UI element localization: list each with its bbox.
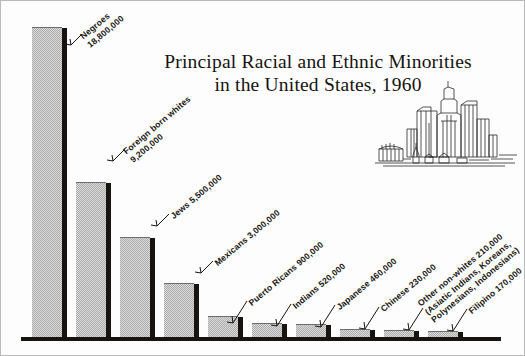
bar-jews-fill — [120, 237, 150, 337]
bar-japanese-shadow — [326, 325, 331, 337]
bar-filipino-fill — [428, 331, 458, 337]
bar-mexicans-shadow — [194, 284, 199, 337]
bar-mexicans-fill — [164, 283, 194, 337]
bar-puerto-ricans-fill — [208, 316, 238, 337]
bar-negroes-shadow — [62, 28, 67, 337]
bar-foreign-born-whites — [76, 1, 112, 356]
chart-page: Principal Racial and Ethnic Minorities i… — [0, 0, 525, 356]
bar-foreign-born-whites-shadow — [106, 183, 111, 337]
bar-jews-shadow — [150, 238, 155, 337]
bar-jews — [120, 1, 156, 356]
bar-japanese-fill — [296, 324, 326, 337]
bar-other-non-whites-shadow — [414, 331, 419, 337]
bar-chinese-fill — [340, 329, 370, 337]
bar-indians-shadow — [282, 324, 287, 337]
bar-negroes-fill — [32, 27, 62, 337]
bar-filipino-shadow — [458, 332, 463, 337]
bar-negroes — [32, 1, 68, 356]
bar-other-non-whites-fill — [384, 330, 414, 337]
bar-puerto-ricans-shadow — [238, 317, 243, 337]
bar-foreign-born-whites-fill — [76, 182, 106, 337]
bar-indians-fill — [252, 323, 282, 337]
bar-chinese-shadow — [370, 330, 375, 337]
bar-mexicans — [164, 1, 200, 356]
bar-chart-plot: Negroes 18,800,000 Foreign born whites 9… — [1, 1, 525, 356]
